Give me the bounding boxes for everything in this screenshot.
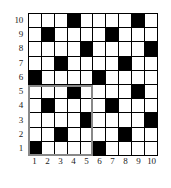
- cell-x1-y10[interactable]: [29, 14, 41, 27]
- cell-x9-y8[interactable]: [132, 42, 144, 55]
- cell-x4-y3[interactable]: [68, 113, 80, 126]
- cell-x2-y3[interactable]: [42, 113, 54, 126]
- cell-x1-y6[interactable]: [29, 71, 41, 84]
- cell-x10-y8[interactable]: [145, 42, 157, 55]
- cell-x6-y4[interactable]: [93, 99, 105, 112]
- cell-x1-y1[interactable]: [29, 142, 41, 155]
- cell-x7-y2[interactable]: [106, 128, 118, 141]
- cell-x8-y8[interactable]: [119, 42, 131, 55]
- cell-x4-y1[interactable]: [68, 142, 80, 155]
- cell-x10-y7[interactable]: [145, 57, 157, 70]
- cell-x9-y10[interactable]: [132, 14, 144, 27]
- cell-x9-y1[interactable]: [132, 142, 144, 155]
- cell-x1-y8[interactable]: [29, 42, 41, 55]
- cell-x9-y9[interactable]: [132, 28, 144, 41]
- cell-x2-y2[interactable]: [42, 128, 54, 141]
- cell-x2-y8[interactable]: [42, 42, 54, 55]
- cell-x7-y8[interactable]: [106, 42, 118, 55]
- cell-x4-y4[interactable]: [68, 99, 80, 112]
- cell-x2-y9[interactable]: [42, 28, 54, 41]
- cell-x9-y4[interactable]: [132, 99, 144, 112]
- cell-x4-y10[interactable]: [68, 14, 80, 27]
- cell-x7-y3[interactable]: [106, 113, 118, 126]
- cell-x8-y4[interactable]: [119, 99, 131, 112]
- cell-x2-y4[interactable]: [42, 99, 54, 112]
- cell-x2-y1[interactable]: [42, 142, 54, 155]
- cell-x6-y8[interactable]: [93, 42, 105, 55]
- cell-x8-y1[interactable]: [119, 142, 131, 155]
- cell-x3-y9[interactable]: [55, 28, 67, 41]
- cell-x6-y5[interactable]: [93, 85, 105, 98]
- cell-x8-y9[interactable]: [119, 28, 131, 41]
- cell-x7-y6[interactable]: [106, 71, 118, 84]
- cell-x6-y6[interactable]: [93, 71, 105, 84]
- cell-x6-y10[interactable]: [93, 14, 105, 27]
- cell-x8-y3[interactable]: [119, 113, 131, 126]
- cell-x9-y6[interactable]: [132, 71, 144, 84]
- cell-x2-y6[interactable]: [42, 71, 54, 84]
- cell-x5-y7[interactable]: [81, 57, 93, 70]
- cell-x3-y4[interactable]: [55, 99, 67, 112]
- cell-x6-y2[interactable]: [93, 128, 105, 141]
- cell-x3-y6[interactable]: [55, 71, 67, 84]
- cell-x3-y5[interactable]: [55, 85, 67, 98]
- cell-x5-y5[interactable]: [81, 85, 93, 98]
- cell-x10-y9[interactable]: [145, 28, 157, 41]
- cell-x5-y10[interactable]: [81, 14, 93, 27]
- cell-x2-y5[interactable]: [42, 85, 54, 98]
- cell-x4-y9[interactable]: [68, 28, 80, 41]
- cell-x5-y9[interactable]: [81, 28, 93, 41]
- cell-x6-y9[interactable]: [93, 28, 105, 41]
- cell-x3-y2[interactable]: [55, 128, 67, 141]
- cell-x3-y8[interactable]: [55, 42, 67, 55]
- cell-x10-y10[interactable]: [145, 14, 157, 27]
- cell-x4-y2[interactable]: [68, 128, 80, 141]
- cell-x1-y9[interactable]: [29, 28, 41, 41]
- cell-x5-y8[interactable]: [81, 42, 93, 55]
- cell-x5-y1[interactable]: [81, 142, 93, 155]
- cell-x1-y5[interactable]: [29, 85, 41, 98]
- cell-x2-y10[interactable]: [42, 14, 54, 27]
- cell-x7-y4[interactable]: [106, 99, 118, 112]
- cell-x8-y6[interactable]: [119, 71, 131, 84]
- cell-x5-y4[interactable]: [81, 99, 93, 112]
- cell-x10-y5[interactable]: [145, 85, 157, 98]
- cell-x4-y6[interactable]: [68, 71, 80, 84]
- cell-x8-y7[interactable]: [119, 57, 131, 70]
- cell-x8-y5[interactable]: [119, 85, 131, 98]
- cell-x5-y3[interactable]: [81, 113, 93, 126]
- cell-x4-y5[interactable]: [68, 85, 80, 98]
- cell-x3-y3[interactable]: [55, 113, 67, 126]
- cell-x5-y6[interactable]: [81, 71, 93, 84]
- cell-x2-y7[interactable]: [42, 57, 54, 70]
- cell-x8-y10[interactable]: [119, 14, 131, 27]
- cell-x3-y7[interactable]: [55, 57, 67, 70]
- cell-x7-y7[interactable]: [106, 57, 118, 70]
- cell-x9-y5[interactable]: [132, 85, 144, 98]
- cell-x9-y7[interactable]: [132, 57, 144, 70]
- cell-x4-y8[interactable]: [68, 42, 80, 55]
- cell-x1-y4[interactable]: [29, 99, 41, 112]
- cell-x10-y2[interactable]: [145, 128, 157, 141]
- cell-x10-y1[interactable]: [145, 142, 157, 155]
- cell-x1-y3[interactable]: [29, 113, 41, 126]
- cell-x1-y2[interactable]: [29, 128, 41, 141]
- cell-x7-y1[interactable]: [106, 142, 118, 155]
- cell-x3-y1[interactable]: [55, 142, 67, 155]
- cell-x3-y10[interactable]: [55, 14, 67, 27]
- cell-x6-y7[interactable]: [93, 57, 105, 70]
- cell-x1-y7[interactable]: [29, 57, 41, 70]
- cell-x5-y2[interactable]: [81, 128, 93, 141]
- cell-x9-y3[interactable]: [132, 113, 144, 126]
- cell-x10-y3[interactable]: [145, 113, 157, 126]
- cell-x7-y10[interactable]: [106, 14, 118, 27]
- cell-x4-y7[interactable]: [68, 57, 80, 70]
- cell-x9-y2[interactable]: [132, 128, 144, 141]
- cell-x8-y2[interactable]: [119, 128, 131, 141]
- cell-x7-y5[interactable]: [106, 85, 118, 98]
- cell-x10-y4[interactable]: [145, 99, 157, 112]
- cell-x10-y6[interactable]: [145, 71, 157, 84]
- cell-x6-y3[interactable]: [93, 113, 105, 126]
- cell-x6-y1[interactable]: [93, 142, 105, 155]
- cell-grid[interactable]: [28, 13, 158, 156]
